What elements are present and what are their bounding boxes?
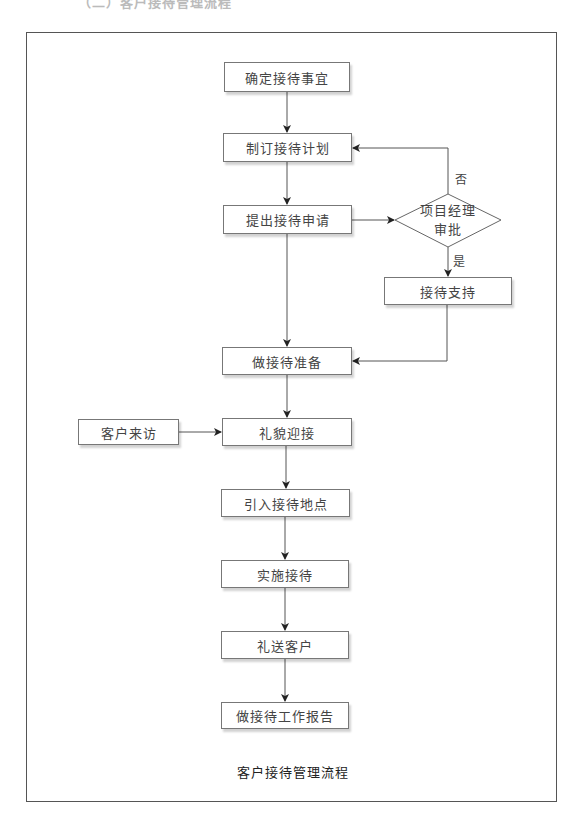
node-polite-greeting: 礼貌迎接 bbox=[222, 418, 352, 446]
node-see-off-customer: 礼送客户 bbox=[221, 631, 349, 659]
node-make-plan: 制订接待计划 bbox=[223, 133, 352, 162]
node-prepare-reception: 做接待准备 bbox=[222, 347, 352, 375]
edge-label-yes: 是 bbox=[453, 252, 465, 269]
approval-label-line1: 项目经理 bbox=[420, 201, 476, 220]
diagram-caption: 客户接待管理流程 bbox=[0, 762, 586, 781]
node-implement-reception: 实施接待 bbox=[221, 560, 349, 588]
approval-label-line2: 审批 bbox=[434, 220, 462, 239]
node-guide-to-venue: 引入接待地点 bbox=[221, 489, 350, 517]
node-submit-application: 提出接待申请 bbox=[223, 205, 352, 234]
node-work-report: 做接待工作报告 bbox=[221, 702, 349, 729]
node-manager-approval: 项目经理 审批 bbox=[395, 198, 501, 242]
node-customer-visit: 客户来访 bbox=[78, 419, 179, 445]
node-confirm-matters: 确定接待事宜 bbox=[224, 62, 350, 92]
edge-label-no: 否 bbox=[455, 170, 467, 187]
node-reception-support: 接待支持 bbox=[384, 277, 512, 305]
